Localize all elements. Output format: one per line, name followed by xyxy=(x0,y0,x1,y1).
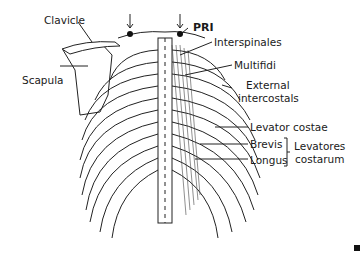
label-pri: PRI xyxy=(193,22,214,34)
anatomy-diagram: Clavicle Scapula PRI Interspinales Multi… xyxy=(0,0,361,253)
label-scapula: Scapula xyxy=(22,74,64,86)
label-levatores-costarum-line1: Levatores xyxy=(294,140,345,152)
label-longus: Longus xyxy=(250,154,288,166)
label-levatores-costarum-line2: costarum xyxy=(295,153,344,165)
label-clavicle: Clavicle xyxy=(44,14,85,26)
leader-interspinales xyxy=(180,42,212,55)
label-levator-costae: Levator costae xyxy=(250,121,328,133)
label-external-intercostals-line1: External xyxy=(246,79,290,91)
leader-multifidi xyxy=(185,65,232,75)
pri-dot-left xyxy=(127,31,133,37)
arrow-right xyxy=(177,14,183,28)
label-multifidi: Multifidi xyxy=(234,59,276,71)
label-interspinales: Interspinales xyxy=(214,36,282,48)
arrow-left xyxy=(127,14,133,28)
label-brevis: Brevis xyxy=(250,138,282,150)
deep-back-muscles xyxy=(172,45,200,215)
end-marker xyxy=(354,245,360,251)
pri-dot-right xyxy=(177,31,183,37)
label-external-intercostals-line2: intercostals xyxy=(238,92,299,104)
